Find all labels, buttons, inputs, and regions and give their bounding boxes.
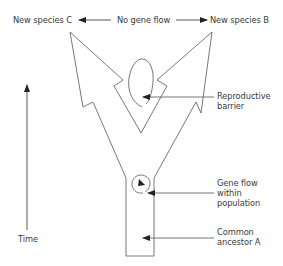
- gene-flow-circle-arrowhead: [138, 179, 145, 186]
- diagram-graphics: [0, 0, 283, 266]
- branching-lineage-outline: [70, 32, 212, 256]
- reproductive-barrier-loop: [129, 59, 154, 107]
